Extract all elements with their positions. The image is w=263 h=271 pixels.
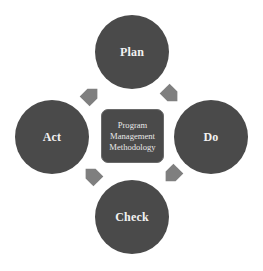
stage-check: Check xyxy=(95,180,169,254)
stage-do: Do xyxy=(174,100,248,174)
center-methodology-box: Program Management Methodology xyxy=(101,109,164,163)
pdca-cycle-diagram: Plan Do Check Act Program Management Met… xyxy=(0,0,263,271)
arrow-plan-to-do-icon xyxy=(155,79,186,110)
center-line-1: Program xyxy=(118,120,148,131)
stage-act-label: Act xyxy=(43,130,62,145)
arrow-check-to-act-icon xyxy=(76,159,107,190)
stage-check-label: Check xyxy=(115,210,149,225)
stage-act: Act xyxy=(15,100,89,174)
arrow-act-to-plan-icon xyxy=(75,79,106,110)
arrow-do-to-check-icon xyxy=(156,159,187,190)
center-line-3: Methodology xyxy=(109,142,155,153)
center-line-2: Management xyxy=(110,131,155,142)
stage-plan-label: Plan xyxy=(120,45,144,60)
stage-do-label: Do xyxy=(203,130,218,145)
stage-plan: Plan xyxy=(95,15,169,89)
